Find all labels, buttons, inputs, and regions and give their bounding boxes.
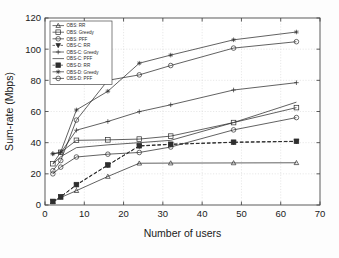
marker-square-filled <box>56 63 61 68</box>
chart-svg: 010203040506070020406080100120Number of … <box>0 0 339 258</box>
xtick-label: 10 <box>79 208 90 219</box>
marker-square-filled <box>231 140 236 145</box>
xtick-label: 50 <box>236 208 247 219</box>
figure-container: 010203040506070020406080100120Number of … <box>0 0 339 258</box>
marker-square-filled <box>168 142 173 147</box>
legend-label-4: OBS-C: RR <box>67 43 91 48</box>
x-axis-label: Number of users <box>144 227 222 239</box>
ytick-label: 40 <box>30 137 41 148</box>
y-axis-label: Sum-rate (Mbps) <box>3 72 15 151</box>
marker-square-filled <box>106 163 111 168</box>
marker-square-filled <box>137 143 142 148</box>
ytick-label: 0 <box>36 199 41 210</box>
legend-label-5: OBS-C: Greedy <box>67 50 100 55</box>
marker-square-filled <box>51 199 56 204</box>
legend-label-7: OBS-D: RR <box>67 63 91 68</box>
ytick-label: 100 <box>25 44 41 55</box>
ytick-label: 60 <box>30 106 41 117</box>
legend-label-6: OBS-C: PFF <box>67 56 93 61</box>
xtick-label: 70 <box>315 208 326 219</box>
ytick-label: 120 <box>25 12 41 23</box>
xtick-label: 20 <box>118 208 129 219</box>
xtick-label: 0 <box>42 208 47 219</box>
legend-label-1: OBS: RR <box>67 23 87 28</box>
xtick-label: 40 <box>197 208 208 219</box>
legend-label-2: OBS: Greedy <box>67 30 95 35</box>
ytick-label: 20 <box>30 168 41 179</box>
marker-square-filled <box>58 194 63 199</box>
legend-label-9: OBS-D: PFF <box>67 76 93 81</box>
legend: OBS: RROBS: GreedyOBS: PFFOBS-C: RROBS-C… <box>50 21 112 84</box>
xtick-label: 30 <box>158 208 169 219</box>
marker-square-filled <box>294 139 299 144</box>
xtick-label: 60 <box>275 208 286 219</box>
legend-label-8: OBS-D: Greedy <box>67 70 100 75</box>
ytick-label: 80 <box>30 75 41 86</box>
marker-square-filled <box>74 182 79 187</box>
legend-label-3: OBS: PFF <box>67 37 88 42</box>
